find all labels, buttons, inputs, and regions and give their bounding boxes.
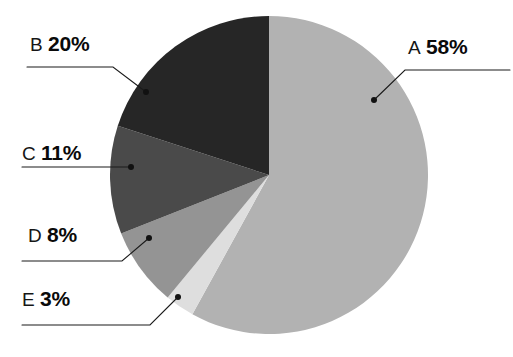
callout-value-e: 3% xyxy=(40,287,70,310)
callout-label-a: A58% xyxy=(408,36,467,57)
callout-label-c: C11% xyxy=(22,142,81,163)
callout-label-b: B20% xyxy=(30,33,89,54)
callout-key-b: B xyxy=(30,34,43,55)
callout-value-d: 8% xyxy=(47,223,77,246)
pie-chart-figure: A58% B20% C11% D8% E3% xyxy=(0,0,513,357)
callout-label-d: D8% xyxy=(28,224,77,245)
callout-dot-d xyxy=(146,235,152,241)
callout-value-a: 58% xyxy=(426,35,467,58)
leader-line-b xyxy=(27,67,146,92)
callout-dot-a xyxy=(371,97,377,103)
callout-key-d: D xyxy=(28,225,42,246)
callout-value-b: 20% xyxy=(48,32,89,55)
callout-dot-c xyxy=(128,164,134,170)
callout-key-a: A xyxy=(408,37,421,58)
callout-dot-b xyxy=(143,89,149,95)
callout-key-c: C xyxy=(22,143,36,164)
callout-label-e: E3% xyxy=(22,288,70,309)
callout-value-c: 11% xyxy=(41,141,81,164)
pie-slices xyxy=(110,16,428,334)
callout-dot-e xyxy=(175,294,181,300)
callout-key-e: E xyxy=(22,289,35,310)
